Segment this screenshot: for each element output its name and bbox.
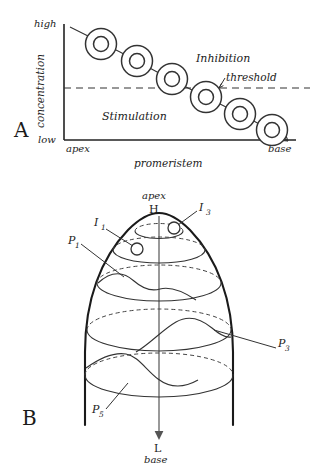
label-i1-subscript: 1 xyxy=(101,223,106,232)
apex-label: apex xyxy=(142,190,166,201)
label-p5-subscript: 5 xyxy=(99,410,104,419)
threshold-leader-arrowhead xyxy=(219,83,223,88)
label-p3: P 3 xyxy=(277,337,290,353)
incipient-primordium-i3-circle xyxy=(168,222,180,234)
central-axis-arrowhead xyxy=(155,431,164,440)
p1-leader-line xyxy=(81,244,124,277)
panel-b: B apex H L base xyxy=(22,190,290,465)
label-i3-subscript: 3 xyxy=(206,208,211,217)
i3-leader-line xyxy=(178,211,197,225)
figure-svg: A high low concentration apex base prome… xyxy=(0,0,318,465)
x-axis-title: promeristem xyxy=(134,157,202,169)
label-i1: I 1 xyxy=(93,216,106,232)
cell-marker xyxy=(122,46,153,77)
y-tick-high-label: high xyxy=(34,18,56,29)
threshold-label: threshold xyxy=(226,71,277,83)
y-axis-title: concentration xyxy=(34,54,46,128)
primordium-surface-p1 xyxy=(98,274,196,300)
panel-b-letter: B xyxy=(22,406,37,430)
x-tick-apex-label: apex xyxy=(66,143,90,154)
base-label: base xyxy=(144,454,167,465)
primordium-surface-p3 xyxy=(136,318,231,352)
cell-marker xyxy=(225,99,256,130)
primordium-surface-p5 xyxy=(86,354,198,386)
inhibition-region-label: Inhibition xyxy=(195,52,250,65)
figure-container: A high low concentration apex base prome… xyxy=(0,0,318,465)
label-p1-subscript: 1 xyxy=(75,241,80,250)
label-p5: P 5 xyxy=(91,403,104,419)
label-i1-letter: I xyxy=(93,216,99,229)
y-tick-low-label: low xyxy=(38,134,56,145)
panel-a: A high low concentration apex base prome… xyxy=(13,18,310,169)
panel-a-letter: A xyxy=(13,118,29,142)
label-i3: I 3 xyxy=(198,201,211,217)
cell-marker xyxy=(157,64,188,95)
label-p1: P 1 xyxy=(67,234,80,250)
cell-marker xyxy=(86,29,117,60)
cell-marker xyxy=(191,82,222,113)
label-p3-subscript: 3 xyxy=(285,344,290,353)
label-i3-letter: I xyxy=(198,201,204,214)
stimulation-region-label: Stimulation xyxy=(102,110,167,123)
p5-leader-line xyxy=(106,383,128,409)
cell-marker xyxy=(257,115,288,146)
incipient-primordium-i1-circle xyxy=(131,243,143,255)
